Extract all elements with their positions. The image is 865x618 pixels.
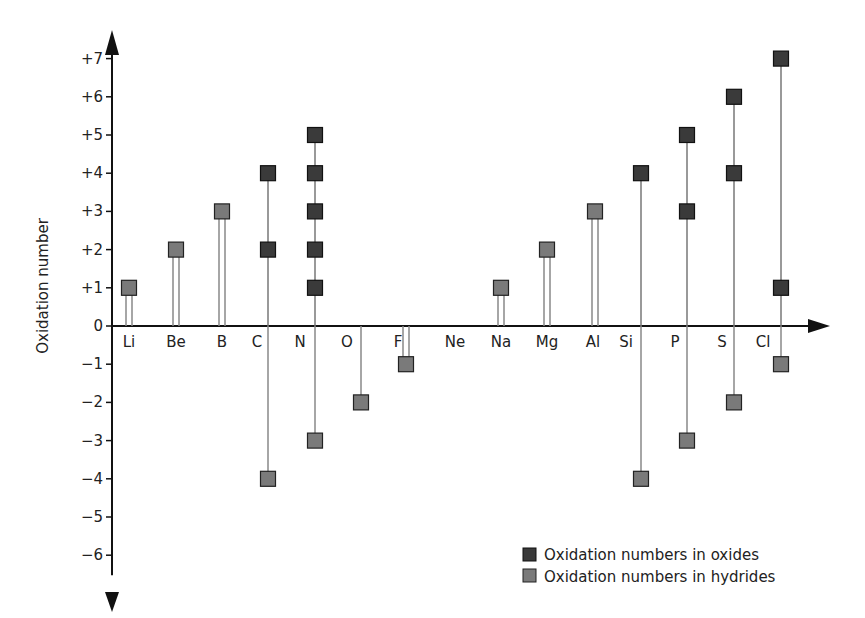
hydride-marker-n bbox=[308, 433, 323, 448]
oxide-marker-c bbox=[261, 166, 276, 181]
legend: Oxidation numbers in oxidesOxidation num… bbox=[523, 546, 776, 586]
y-axis-up-arrow-icon bbox=[105, 30, 119, 55]
oxide-marker-n bbox=[308, 204, 323, 219]
y-tick-label: −4 bbox=[81, 470, 103, 488]
hydride-marker-s bbox=[727, 395, 742, 410]
oxide-marker-p bbox=[680, 128, 695, 143]
y-tick-label: +5 bbox=[81, 126, 103, 144]
element-label-f: F bbox=[394, 333, 403, 351]
y-axis-label: Oxidation number bbox=[34, 217, 52, 353]
hydride-marker-b bbox=[215, 204, 230, 219]
y-tick-label: 0 bbox=[93, 317, 103, 335]
y-tick-label: −2 bbox=[81, 393, 103, 411]
y-tick-label: +6 bbox=[81, 88, 103, 106]
element-label-b: B bbox=[217, 333, 227, 351]
legend-oxides-swatch bbox=[523, 548, 536, 561]
oxide-marker-s bbox=[727, 89, 742, 104]
legend-hydrides-swatch bbox=[523, 569, 536, 582]
hydride-marker-li bbox=[122, 280, 137, 295]
y-tick-label: −1 bbox=[81, 355, 103, 373]
y-tick-label: +2 bbox=[81, 241, 103, 259]
element-label-li: Li bbox=[123, 333, 136, 351]
hydride-marker-be bbox=[169, 242, 184, 257]
y-axis-down-arrow-icon bbox=[105, 592, 119, 612]
oxide-marker-cl bbox=[774, 51, 789, 66]
element-label-p: P bbox=[670, 333, 679, 351]
hydride-marker-f bbox=[399, 357, 414, 372]
element-label-al: Al bbox=[586, 333, 600, 351]
hydride-marker-mg bbox=[540, 242, 555, 257]
y-tick-label: −6 bbox=[81, 546, 103, 564]
x-axis-arrow-icon bbox=[808, 319, 830, 333]
element-label-ne: Ne bbox=[445, 333, 465, 351]
element-label-be: Be bbox=[166, 333, 186, 351]
oxide-marker-si bbox=[634, 166, 649, 181]
y-tick-label: +3 bbox=[81, 202, 103, 220]
hydride-marker-na bbox=[494, 280, 509, 295]
oxide-marker-s bbox=[727, 166, 742, 181]
oxide-marker-cl bbox=[774, 280, 789, 295]
oxide-marker-c bbox=[261, 242, 276, 257]
y-tick-label: +1 bbox=[81, 279, 103, 297]
oxide-marker-n bbox=[308, 128, 323, 143]
y-tick-label: +4 bbox=[81, 164, 103, 182]
hydride-marker-p bbox=[680, 433, 695, 448]
element-label-c: C bbox=[252, 333, 262, 351]
hydride-marker-o bbox=[354, 395, 369, 410]
y-tick-label: +7 bbox=[81, 50, 103, 68]
element-label-n: N bbox=[294, 333, 305, 351]
element-label-na: Na bbox=[491, 333, 511, 351]
oxidation-chart: +7+6+5+4+3+2+10−1−2−3−4−5−6Oxidation num… bbox=[0, 0, 865, 618]
element-label-o: O bbox=[341, 333, 353, 351]
hydride-marker-al bbox=[588, 204, 603, 219]
hydride-marker-c bbox=[261, 471, 276, 486]
element-label-si: Si bbox=[619, 333, 633, 351]
element-label-s: S bbox=[717, 333, 727, 351]
hydride-marker-cl bbox=[774, 357, 789, 372]
legend-hydrides-label: Oxidation numbers in hydrides bbox=[544, 568, 776, 586]
y-tick-label: −5 bbox=[81, 508, 103, 526]
oxide-marker-n bbox=[308, 242, 323, 257]
y-tick-label: −3 bbox=[81, 432, 103, 450]
oxide-marker-n bbox=[308, 166, 323, 181]
oxide-marker-p bbox=[680, 204, 695, 219]
legend-oxides-label: Oxidation numbers in oxides bbox=[544, 546, 759, 564]
hydride-marker-si bbox=[634, 471, 649, 486]
element-label-cl: Cl bbox=[756, 333, 771, 351]
element-label-mg: Mg bbox=[536, 333, 558, 351]
oxide-marker-n bbox=[308, 280, 323, 295]
